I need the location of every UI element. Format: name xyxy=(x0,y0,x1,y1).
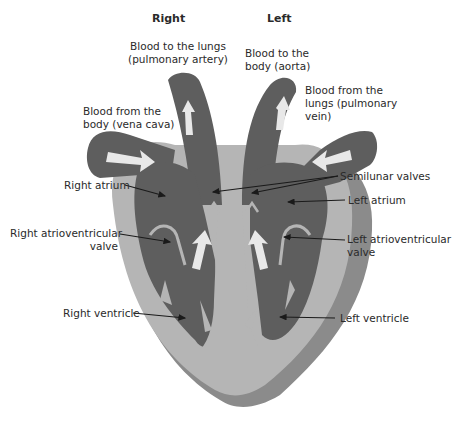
header-right: Right xyxy=(152,12,185,25)
label-pulmonary-vein: Blood from the lungs (pulmonary vein) xyxy=(305,84,397,123)
label-pulmonary-artery: Blood to the lungs (pulmonary artery) xyxy=(118,40,238,66)
label-left-ventricle: Left ventricle xyxy=(340,312,409,325)
label-aorta: Blood to the body (aorta) xyxy=(245,47,310,73)
label-right-atrium: Right atrium xyxy=(64,179,130,192)
label-left-atrium: Left atrium xyxy=(348,194,406,207)
label-right-av-valve: Right atrioventricular valve xyxy=(10,227,118,253)
label-semilunar-valves: Semilunar valves xyxy=(340,170,430,183)
label-vena-cava: Blood from the body (vena cava) xyxy=(83,105,174,131)
header-left: Left xyxy=(267,12,292,25)
label-right-ventricle: Right ventricle xyxy=(63,307,140,320)
label-left-av-valve: Left atrioventricular valve xyxy=(347,233,451,259)
